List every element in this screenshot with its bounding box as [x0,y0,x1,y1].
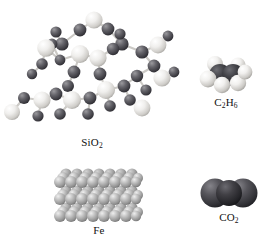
sio2-svg [2,2,182,138]
sio2-model [2,2,182,138]
c2h6-label-c: C [214,96,222,108]
co2-label: CO2 [192,211,266,223]
co2-label-sub: 2 [235,216,239,225]
c2h6-label: C2H6 [190,96,262,108]
fe-label: Fe [62,224,136,236]
sio2-label-sub: 2 [99,141,103,150]
co2-label-lead: CO [219,211,235,223]
fe-front-layer [54,176,141,222]
c2h6-svg [198,56,254,96]
fe-label-text: Fe [93,224,104,236]
fe-model [56,166,142,222]
sio2-label-lead: SiO [81,136,99,148]
c2h6-model [198,56,254,96]
c2h6-label-sub-c: 2 [222,101,226,110]
co2-model [200,176,258,210]
fe-svg [56,166,142,222]
structures-figure: SiO2 [0,0,274,250]
co2-svg [200,176,258,210]
co2-atoms [201,179,258,208]
c2h6-label-h: H [226,96,234,108]
c2h6-label-sub-h: 6 [234,101,238,110]
sio2-label: SiO2 [42,136,142,148]
